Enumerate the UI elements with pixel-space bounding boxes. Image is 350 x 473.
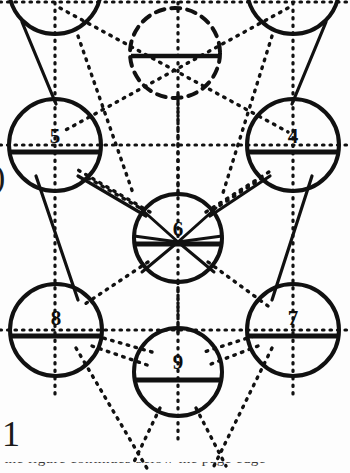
sphere-5-label: 5: [50, 124, 61, 148]
path-s9-s10-right: [196, 408, 226, 466]
tree-of-life-diagram: 5 4 6 8: [0, 0, 350, 473]
sphere-8-label: 8: [51, 306, 62, 330]
clipped-caption-text: the figure continues below the page edge: [4, 462, 348, 467]
path-upper-right-diagonal: [222, 36, 272, 196]
diagram-page: 5 4 6 8: [0, 0, 350, 473]
path-s4-s6-solid: [210, 176, 270, 216]
path-s5-s8-solid: [36, 176, 78, 300]
sphere-7-label: 7: [288, 306, 299, 330]
sphere-6-label: 6: [173, 217, 184, 241]
sphere-4-label: 4: [288, 124, 299, 148]
sphere-5[interactable]: 5: [9, 99, 101, 191]
sphere-daath[interactable]: [130, 8, 220, 98]
page-numeral: 1: [2, 416, 20, 452]
clipped-caption-row: the figure continues below the page edge: [0, 462, 350, 473]
margin-parenthesis-glyph: ): [0, 160, 5, 194]
sphere-9-label: 9: [173, 350, 184, 374]
path-s9-s10-left: [132, 408, 160, 466]
path-s6-s4-dotted: [206, 170, 272, 212]
sphere-daath-outline: [130, 8, 220, 98]
path-s5-s6-solid: [78, 176, 146, 216]
path-s5-s6-guide: [88, 178, 140, 208]
